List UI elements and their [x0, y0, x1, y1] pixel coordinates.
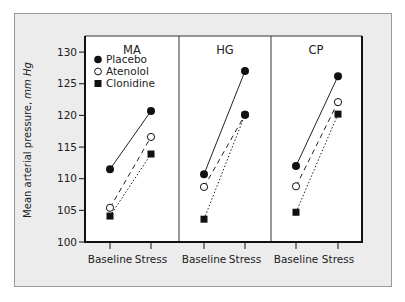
- filled-square-marker: [107, 213, 114, 220]
- y-tick-label: 110: [57, 172, 77, 184]
- x-tick-label: Stress: [135, 253, 167, 265]
- x-tick-label: Baseline: [274, 253, 319, 265]
- panel-title: CP: [309, 43, 324, 57]
- y-tick-label: 105: [57, 204, 77, 216]
- legend-label: Atenolol: [106, 65, 149, 77]
- chart-svg: 100105110115120125130 BaselineStressBase…: [0, 0, 405, 302]
- x-tick-label: Stress: [229, 253, 261, 265]
- open-circle-marker: [200, 183, 207, 190]
- filled-square-marker: [293, 209, 300, 216]
- y-tick-label: 115: [57, 141, 77, 153]
- filled-square-marker: [201, 216, 208, 223]
- y-tick-label: 100: [57, 236, 77, 248]
- filled-circle-marker: [334, 72, 342, 80]
- x-tick-label: Baseline: [88, 253, 133, 265]
- y-tick-label: 120: [57, 109, 77, 121]
- filled-square-marker: [148, 151, 155, 158]
- y-ticks: 100105110115120125130: [57, 46, 85, 248]
- filled-circle-marker: [200, 170, 208, 178]
- legend-label: Placebo: [106, 53, 147, 65]
- panel-title: HG: [216, 43, 234, 57]
- legend-open-circle-icon: [95, 68, 102, 75]
- open-circle-marker: [147, 133, 154, 140]
- x-tick-label: Stress: [322, 253, 354, 265]
- filled-square-marker: [335, 111, 342, 118]
- y-tick-label: 125: [57, 77, 77, 89]
- open-circle-marker: [334, 99, 341, 106]
- filled-circle-marker: [147, 107, 155, 115]
- filled-circle-marker: [106, 165, 114, 173]
- open-circle-marker: [106, 204, 113, 211]
- filled-circle-marker: [292, 162, 300, 170]
- y-tick-label: 130: [57, 46, 77, 58]
- legend-label: Clonidine: [106, 77, 155, 89]
- filled-circle-marker: [241, 111, 249, 119]
- legend-filled-square-icon: [95, 80, 102, 87]
- x-tick-label: Baseline: [182, 253, 227, 265]
- legend-filled-circle-icon: [94, 56, 102, 64]
- open-circle-marker: [292, 183, 299, 190]
- x-ticks: BaselineStressBaselineStressBaselineStre…: [88, 242, 354, 265]
- filled-circle-marker: [241, 67, 249, 75]
- y-axis-label: Mean arterial pressure, mm Hg: [22, 62, 33, 218]
